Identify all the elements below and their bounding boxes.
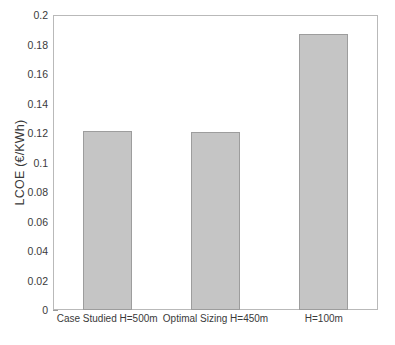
bars-layer (53, 15, 378, 310)
y-axis-tick-label: 0.12 (2, 127, 48, 139)
y-axis-tick-label: 0.2 (2, 9, 48, 21)
y-axis-tick-label: 0.18 (2, 39, 48, 51)
y-axis-tick-label: 0.06 (2, 216, 48, 228)
y-axis-tick-label: 0.14 (2, 98, 48, 110)
bar (191, 132, 240, 310)
y-axis-tick-label: 0.16 (2, 68, 48, 80)
x-axis-tick-label: H=100m (305, 313, 343, 324)
bar (83, 131, 132, 310)
y-axis-tick-label: 0 (2, 304, 48, 316)
y-axis-tick-label: 0.1 (2, 157, 48, 169)
x-axis-tick-label: Optimal Sizing H=450m (163, 313, 268, 324)
y-axis-tick-mark (53, 310, 58, 311)
y-axis-tick-label: 0.04 (2, 245, 48, 257)
x-axis-tick-label: Case Studied H=500m (57, 313, 158, 324)
y-axis-tick-labels: 00.020.040.060.080.10.120.140.160.180.2 (0, 15, 48, 310)
bar (299, 34, 348, 310)
x-axis-tick-labels: Case Studied H=500mOptimal Sizing H=450m… (53, 313, 378, 333)
bar-chart-figure: LCOE (€/KWh) 00.020.040.060.080.10.120.1… (0, 0, 395, 345)
y-axis-tick-label: 0.08 (2, 186, 48, 198)
y-axis-tick-label: 0.02 (2, 275, 48, 287)
